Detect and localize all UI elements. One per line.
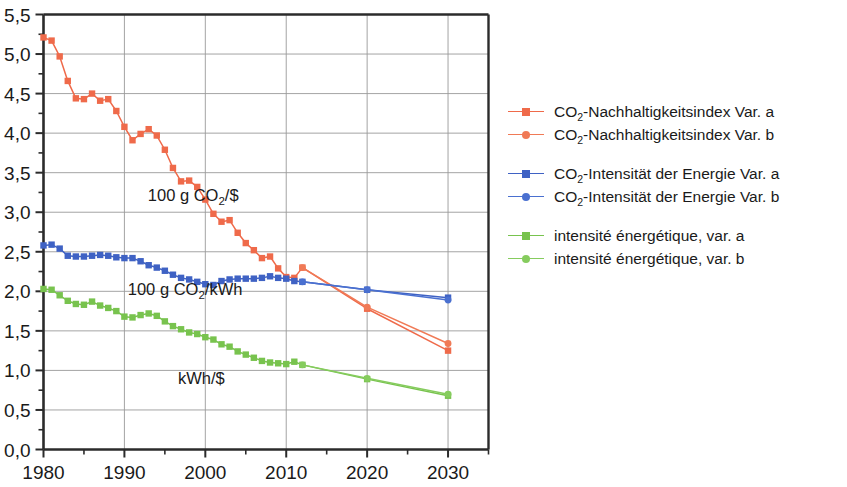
x-axis-tick-labels: 198019902000201020202030	[22, 462, 469, 483]
data-point	[178, 178, 184, 184]
y-tick-label: 3,5	[4, 163, 30, 184]
data-point	[89, 298, 95, 304]
data-point	[259, 358, 265, 364]
data-point	[170, 323, 176, 329]
chart-legend: CO2-Nachhaltigkeitsindex Var. aCO2-Nachh…	[508, 100, 846, 286]
data-point	[113, 254, 119, 260]
data-point	[89, 253, 95, 259]
data-point	[186, 329, 192, 335]
data-point	[259, 275, 265, 281]
data-point	[73, 253, 79, 259]
data-point	[137, 131, 143, 137]
chart-annotations: 100 g CO2/$100 g CO2/kWhkWh/$	[128, 186, 243, 387]
data-point	[97, 98, 103, 104]
data-point	[226, 217, 232, 223]
data-point	[259, 255, 265, 261]
data-point	[105, 96, 111, 102]
data-point	[97, 252, 103, 258]
data-point	[48, 287, 54, 293]
data-point	[275, 275, 281, 281]
y-tick-label: 0,0	[4, 440, 30, 461]
data-point	[40, 286, 46, 292]
data-point	[121, 313, 127, 319]
legend-swatch-icon	[508, 190, 544, 204]
legend-item[interactable]: intensité énergétique, var. a	[508, 224, 846, 247]
data-point	[113, 108, 119, 114]
x-tick-label: 2000	[184, 462, 226, 483]
x-tick-label: 2030	[427, 462, 469, 483]
axis-ticks	[36, 15, 489, 458]
legend-swatch-icon	[508, 128, 544, 142]
x-tick-label: 1990	[103, 462, 145, 483]
data-point	[283, 275, 289, 281]
data-point	[218, 219, 224, 225]
data-point	[129, 314, 135, 320]
data-point	[145, 126, 151, 132]
legend-group-1: CO2-Intensität der Energie Var. aCO2-Int…	[508, 162, 846, 208]
x-tick-label: 1980	[22, 462, 64, 483]
data-point	[65, 298, 71, 304]
data-point	[65, 78, 71, 84]
data-point	[40, 34, 46, 40]
y-tick-label: 5,5	[4, 5, 30, 26]
data-point	[243, 275, 249, 281]
data-point	[137, 312, 143, 318]
axes	[44, 15, 489, 450]
series-line	[44, 289, 449, 396]
data-point	[162, 318, 168, 324]
legend-item-label: CO2-Intensität der Energie Var. a	[554, 166, 779, 182]
data-point	[105, 305, 111, 311]
data-point	[364, 304, 371, 311]
data-point	[267, 359, 273, 365]
data-point	[81, 302, 87, 308]
data-point	[299, 264, 306, 271]
data-point	[364, 375, 371, 382]
data-point	[267, 253, 273, 259]
y-tick-label: 0,5	[4, 400, 30, 421]
data-point	[154, 313, 160, 319]
legend-item[interactable]: CO2-Nachhaltigkeitsindex Var. b	[508, 123, 846, 146]
legend-item[interactable]: CO2-Intensität der Energie Var. b	[508, 185, 846, 208]
data-point	[65, 253, 71, 259]
data-point	[73, 95, 79, 101]
data-point	[81, 253, 87, 259]
data-point	[89, 90, 95, 96]
data-point	[154, 264, 160, 270]
data-point	[40, 242, 46, 248]
series-1	[299, 264, 451, 347]
x-tick-label: 2020	[346, 462, 388, 483]
series-line	[44, 37, 449, 350]
series-4	[40, 286, 451, 399]
data-point	[145, 310, 151, 316]
data-point	[113, 308, 119, 314]
legend-group-0: CO2-Nachhaltigkeitsindex Var. aCO2-Nachh…	[508, 100, 846, 146]
data-point	[129, 255, 135, 261]
legend-item-label: CO2-Intensität der Energie Var. b	[554, 189, 779, 205]
data-point	[202, 334, 208, 340]
legend-swatch-icon	[508, 105, 544, 119]
y-tick-label: 4,0	[4, 123, 30, 144]
legend-item[interactable]: CO2-Intensität der Energie Var. a	[508, 162, 846, 185]
data-point	[210, 211, 216, 217]
data-point	[218, 341, 224, 347]
series-line	[302, 268, 448, 344]
legend-item-label: intensité énergétique, var. b	[554, 251, 744, 267]
data-point	[56, 292, 62, 298]
data-point	[445, 297, 452, 304]
data-point	[129, 137, 135, 143]
data-point	[48, 37, 54, 43]
data-point	[186, 177, 192, 183]
legend-item[interactable]: intensité énergétique, var. b	[508, 247, 846, 270]
data-point	[56, 245, 62, 251]
data-point	[364, 286, 371, 293]
data-point	[226, 343, 232, 349]
data-point	[445, 347, 451, 353]
data-point	[210, 336, 216, 342]
legend-swatch-icon	[508, 229, 544, 243]
legend-item[interactable]: CO2-Nachhaltigkeitsindex Var. a	[508, 100, 846, 123]
data-point	[154, 132, 160, 138]
legend-item-label: intensité énergétique, var. a	[554, 228, 744, 244]
y-tick-label: 3,0	[4, 202, 30, 223]
data-point	[170, 272, 176, 278]
legend-swatch-icon	[508, 252, 544, 266]
